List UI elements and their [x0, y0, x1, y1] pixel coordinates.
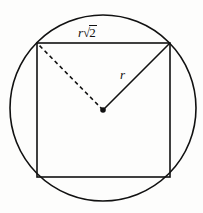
circle-center-point — [100, 107, 106, 113]
radius-to-top-left-corner — [38, 44, 104, 111]
radius-to-top-right-corner — [103, 44, 170, 111]
radical-argument: 2 — [89, 25, 97, 39]
side-length-label: r√2 — [78, 25, 97, 39]
radical-group: √2 — [83, 25, 97, 39]
radius-label: r — [120, 68, 125, 81]
geometry-diagram-svg — [0, 0, 203, 213]
geometry-figure: r√2 r — [0, 0, 203, 213]
